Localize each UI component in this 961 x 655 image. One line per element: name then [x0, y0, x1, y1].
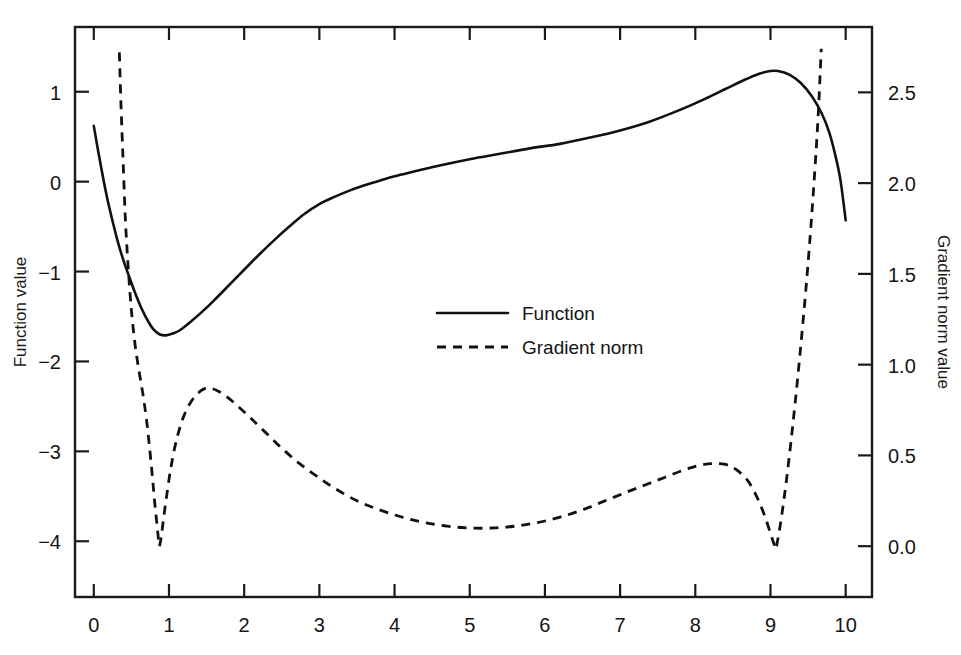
y2-tick-label-3: 1.0: [888, 355, 916, 377]
y-axis-title: Function value: [11, 257, 30, 368]
x-tick-label-7: 7: [615, 614, 626, 636]
figure-background: [0, 0, 961, 655]
x-tick-label-9: 9: [765, 614, 776, 636]
x-tick-label-0: 0: [88, 614, 99, 636]
y2-tick-label-1: 2.0: [888, 173, 916, 195]
y2-tick-label-4: 0.5: [888, 445, 916, 467]
x-tick-label-2: 2: [239, 614, 250, 636]
x-tick-label-1: 1: [163, 614, 174, 636]
x-tick-label-6: 6: [539, 614, 550, 636]
y2-tick-label-2: 1.5: [888, 264, 916, 286]
x-tick-label-8: 8: [690, 614, 701, 636]
y-tick-label-5: −4: [38, 531, 61, 553]
y-tick-label-2: −1: [38, 262, 61, 284]
y-tick-label-1: 0: [50, 172, 61, 194]
y2-tick-label-0: 2.5: [888, 82, 916, 104]
y-tick-label-0: 1: [50, 82, 61, 104]
y-tick-label-3: −2: [38, 351, 61, 373]
y2-tick-label-5: 0.0: [888, 536, 916, 558]
legend-label-function: Function: [522, 303, 595, 324]
x-tick-label-3: 3: [314, 614, 325, 636]
chart-figure: 012345678910 10−1−2−3−4 2.52.01.51.00.50…: [0, 0, 961, 655]
x-tick-label-10: 10: [835, 614, 857, 636]
y-tick-label-4: −3: [38, 441, 61, 463]
y2-axis-title: Gradient norm value: [934, 235, 953, 389]
x-tick-label-5: 5: [464, 614, 475, 636]
x-tick-label-4: 4: [389, 614, 400, 636]
legend-label-gradient-norm: Gradient norm: [522, 337, 643, 358]
